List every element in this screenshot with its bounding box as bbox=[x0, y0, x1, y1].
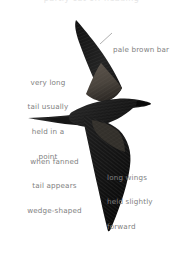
annotation-line: when fanned bbox=[19, 158, 90, 166]
annotation-line: held in a bbox=[17, 128, 79, 136]
annotation-line: held slightly bbox=[107, 198, 153, 206]
leader-line-pale-brown-bar bbox=[100, 33, 112, 44]
annotation-line: tail appears bbox=[19, 182, 90, 190]
annotation-pale-brown-bar: pale brown bar bbox=[113, 29, 169, 70]
bill bbox=[136, 101, 151, 106]
annotation-line: long wings bbox=[107, 174, 153, 182]
annotation-long-wings: long wings held slightly forward bbox=[107, 157, 153, 248]
annotation-line: forward bbox=[107, 223, 153, 231]
annotation-line: very long bbox=[17, 79, 79, 87]
cutoff-heading: partly cut off heading bbox=[0, 0, 183, 7]
annotation-line: tail usually bbox=[17, 103, 79, 111]
annotation-line: wedge-shaped bbox=[19, 207, 90, 215]
annotation-wedge-tail: when fanned tail appears wedge-shaped bbox=[19, 141, 90, 232]
cutoff-heading-text: partly cut off heading bbox=[0, 0, 183, 3]
illustration-plate: partly cut off heading bbox=[0, 0, 183, 254]
annotation-line: pale brown bar bbox=[113, 46, 169, 54]
body bbox=[69, 99, 151, 127]
